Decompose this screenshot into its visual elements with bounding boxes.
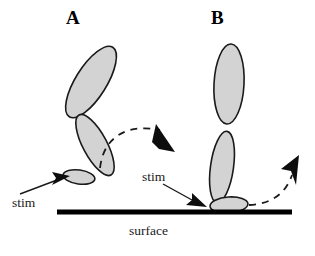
stim-arrow-b-head (186, 193, 207, 207)
structure-b (206, 43, 249, 214)
structure-a-motion-arrowhead (152, 124, 175, 152)
stim-arrow-b-shaft (163, 184, 192, 200)
figure-canvas: A B stim stim surface (0, 0, 315, 256)
structure-b-lower-segment (206, 130, 239, 205)
surface-label: surface (129, 224, 168, 238)
structure-a-upper-segment (56, 39, 126, 125)
panel-label-b: B (211, 8, 224, 27)
stim-label-b: stim (142, 170, 165, 184)
structure-a (56, 39, 126, 186)
diagram-svg (0, 0, 315, 256)
panel-label-a: A (66, 8, 80, 27)
structure-b-motion-arc-group (249, 155, 299, 205)
structure-b-motion-arrowhead (281, 155, 299, 185)
structure-b-motion-arc (249, 175, 292, 205)
stim-label-a: stim (12, 196, 35, 210)
stim-arrow-a-shaft (20, 180, 57, 194)
stim-arrow-a-group (20, 172, 70, 194)
structure-b-upper-segment (212, 43, 246, 124)
stim-arrow-b-group (163, 184, 207, 207)
